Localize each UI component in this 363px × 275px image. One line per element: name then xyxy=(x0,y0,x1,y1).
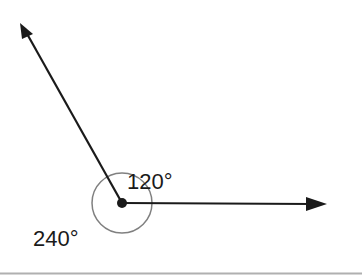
ray-right xyxy=(122,203,313,204)
inner-angle-label: 120° xyxy=(127,171,173,193)
outer-angle-label: 240° xyxy=(33,228,79,250)
ray-up-left xyxy=(26,32,122,203)
arrowhead-up-left-icon xyxy=(20,23,33,39)
arrowhead-right-icon xyxy=(306,197,327,211)
vertex-point xyxy=(117,198,127,208)
